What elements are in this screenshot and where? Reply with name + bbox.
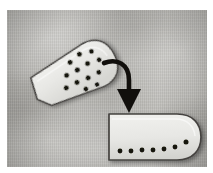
marker-dot [184, 140, 189, 145]
marker-dot [151, 148, 156, 153]
marker-dot [118, 149, 123, 154]
fingertip-pad-source [24, 33, 125, 116]
marker-dot [162, 147, 167, 152]
marker-dot [129, 149, 134, 154]
source-pad-outline [24, 33, 125, 116]
marker-dot [173, 145, 178, 150]
fingertip-pad-target [109, 114, 201, 160]
marker-dot [140, 148, 145, 153]
scene-graphics [7, 10, 207, 167]
target-pad-outline [109, 114, 201, 160]
figure-root: A pale fingertip-shaped pad at upper lef… [0, 0, 213, 173]
arrow-head-icon [117, 89, 141, 113]
photograph [7, 10, 207, 167]
